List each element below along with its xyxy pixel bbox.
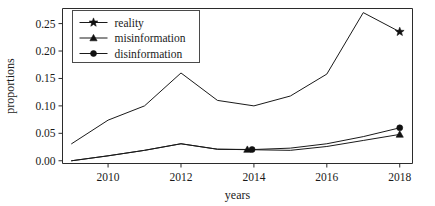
circle-marker xyxy=(249,147,255,153)
legend-label: disinformation xyxy=(115,48,183,60)
x-axis-title: years xyxy=(225,188,251,202)
chart-container: 0.000.050.100.150.200.252010201220142016… xyxy=(0,0,435,206)
legend-label: misinformation xyxy=(115,32,186,44)
y-tick-label: 0.20 xyxy=(35,45,55,57)
x-tick-label: 2014 xyxy=(242,171,265,183)
x-tick-label: 2018 xyxy=(388,171,411,183)
y-tick-label: 0.00 xyxy=(35,155,55,167)
series-line-misinformation xyxy=(72,134,400,160)
y-tick-label: 0.25 xyxy=(35,18,55,30)
chart-legend: realitymisinformationdisinformation xyxy=(73,11,200,63)
circle-marker xyxy=(397,125,403,131)
triangle-marker xyxy=(396,131,403,137)
legend-label: reality xyxy=(115,17,145,30)
y-axis-title: proportions xyxy=(3,58,17,114)
x-tick-label: 2016 xyxy=(315,171,338,183)
line-chart: 0.000.050.100.150.200.252010201220142016… xyxy=(0,0,435,206)
x-tick-label: 2010 xyxy=(97,171,120,183)
star-marker xyxy=(395,27,404,35)
y-tick-label: 0.05 xyxy=(35,127,55,139)
markers-layer xyxy=(244,27,404,152)
y-tick-label: 0.15 xyxy=(35,72,55,84)
x-tick-label: 2012 xyxy=(169,171,192,183)
y-tick-label: 0.10 xyxy=(35,100,55,112)
series-line-disinformation xyxy=(72,128,400,161)
circle-marker xyxy=(91,51,97,57)
